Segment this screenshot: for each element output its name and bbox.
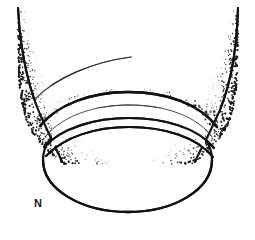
stipple-dot <box>212 120 214 122</box>
figure-label-n: N <box>34 198 42 209</box>
stipple-dot <box>183 154 184 155</box>
stipple-dot <box>95 159 96 160</box>
stipple-dot <box>58 153 60 155</box>
stipple-dot <box>96 157 97 158</box>
stipple-dot <box>169 148 170 149</box>
stipple-dot <box>81 152 82 153</box>
stipple-dot <box>109 90 110 91</box>
stipple-dot <box>231 74 233 76</box>
stipple-dot <box>24 30 25 31</box>
stipple-dot <box>29 113 31 115</box>
stipple-dot <box>64 157 65 158</box>
stipple-dot <box>112 92 113 93</box>
stipple-dot <box>66 155 67 156</box>
stipple-dot <box>189 144 190 145</box>
stipple-dot <box>112 89 113 90</box>
stipple-dot <box>233 41 235 43</box>
stipple-dot <box>215 95 216 96</box>
stipple-dot <box>29 60 30 61</box>
stipple-dot <box>30 94 31 95</box>
stipple-dot <box>36 120 38 122</box>
stipple-dot <box>221 104 222 105</box>
stipple-dot <box>170 160 171 161</box>
stipple-dot <box>171 151 172 152</box>
stipple-dot <box>37 106 38 107</box>
stipple-dot <box>22 106 24 108</box>
stipple-dot <box>23 41 24 42</box>
stipple-dot <box>214 117 216 119</box>
stipple-dot <box>18 68 20 70</box>
stipple-dot <box>97 161 98 162</box>
stipple-dot <box>223 86 224 87</box>
stipple-dot <box>215 120 217 122</box>
stipple-dot <box>144 89 145 90</box>
stipple-dot <box>206 109 207 110</box>
stipple-dot <box>39 122 40 123</box>
stipple-dot <box>18 26 20 28</box>
stipple-dot <box>20 33 21 34</box>
stipple-dot <box>71 103 72 104</box>
stipple-dot <box>188 102 189 103</box>
stipple-dot <box>28 34 29 35</box>
stipple-dot <box>106 163 107 164</box>
stipple-dot <box>160 95 161 96</box>
stipple-dot <box>67 148 68 149</box>
stipple-dot <box>218 97 219 98</box>
stipple-dot <box>43 138 45 140</box>
stipple-dot <box>33 90 34 91</box>
stipple-dot <box>37 135 39 137</box>
stipple-dot <box>230 36 231 37</box>
stipple-dot <box>217 77 218 78</box>
stipple-dot <box>30 62 31 63</box>
stipple-dot <box>42 94 43 95</box>
stipple-dot <box>25 70 26 71</box>
stipple-dot <box>188 161 190 163</box>
stipple-dot <box>44 85 45 86</box>
stipple-dot <box>184 162 186 164</box>
stipple-dot <box>214 79 215 80</box>
stipple-dot <box>74 101 76 103</box>
stipple-dot <box>232 33 233 34</box>
stipple-dot <box>194 100 196 102</box>
stipple-dot <box>212 89 213 90</box>
stipple-dot <box>43 133 45 135</box>
stipple-dot <box>182 152 183 153</box>
stipple-dot <box>202 154 204 156</box>
stipple-dot <box>57 102 58 103</box>
stipple-dot <box>78 162 80 164</box>
stipple-dot <box>232 64 233 65</box>
stipple-dot <box>22 72 24 74</box>
stipple-dot <box>219 133 221 135</box>
stipple-dot <box>32 127 34 129</box>
stipple-dot <box>227 98 228 99</box>
stipple-dot <box>19 80 21 82</box>
stipple-dot <box>18 56 20 58</box>
stipple-dot <box>221 134 223 136</box>
stipple-dot <box>177 162 178 163</box>
stipple-dot <box>34 70 35 71</box>
stipple-dot <box>26 116 28 118</box>
stipple-dot <box>220 128 222 130</box>
stipple-dot <box>226 84 228 86</box>
stipple-dot <box>186 103 187 104</box>
stipple-dot <box>45 130 46 131</box>
stipple-dot <box>38 138 40 140</box>
stipple-dot <box>41 143 43 145</box>
stipple-dot <box>235 34 236 35</box>
stipple-dot <box>215 131 217 133</box>
stipple-dot <box>169 145 170 146</box>
stipple-dot <box>222 91 223 92</box>
stipple-dot <box>210 114 211 115</box>
stipple-dot <box>224 62 225 63</box>
stipple-dot <box>201 108 203 110</box>
stipple-dot <box>234 82 235 83</box>
stipple-dot <box>191 163 193 165</box>
stipple-dot <box>55 156 57 158</box>
stipple-dot <box>24 114 26 116</box>
stipple-dot <box>217 76 218 77</box>
stipple-dot <box>69 137 70 138</box>
stipple-dot <box>152 160 153 161</box>
stipple-dot <box>212 105 213 106</box>
stipple-dot <box>32 111 34 113</box>
stipple-dot <box>83 143 84 144</box>
